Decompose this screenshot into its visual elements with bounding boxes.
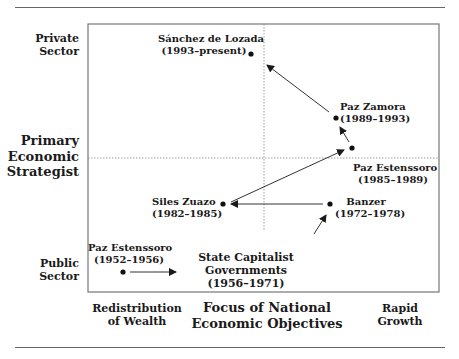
arrow-zamora-to-sanchez [267,65,329,112]
label-state-line2: Governments [196,264,296,277]
y-label-private-sector: Private Sector [35,32,79,58]
x-label-right-line2: Growth [372,315,428,328]
label-zamora-period: (1989–1993) [340,113,404,125]
point-siles-zuazo [220,201,225,206]
y-label-private-line1: Private [35,32,79,45]
label-paz-zamora: Paz Zamora (1989–1993) [340,101,404,125]
label-paz52-period: (1952–1956) [88,254,170,266]
label-zamora-name: Paz Zamora [340,101,404,113]
x-label-left-line1: Redistribution [92,302,182,315]
point-banzer [327,201,332,206]
label-paz85-period: (1985–1989) [353,174,433,186]
label-siles-period: (1982–1985) [152,208,214,220]
point-paz-estenssoro-1985 [349,145,354,150]
x-label-rapid-growth: Rapid Growth [372,302,428,328]
label-paz-estenssoro-1985: Paz Estenssoro (1985–1989) [353,162,433,186]
label-state-capitalist-governments: State Capitalist Governments (1956–1971) [196,251,296,291]
y-label-primary-line1: Primary [7,133,79,149]
arrow-state-to-banzer [314,215,326,234]
label-paz52-name: Paz Estenssoro [88,242,170,254]
y-label-primary-line3: Strategist [7,164,79,180]
x-label-redistribution: Redistribution of Wealth [92,302,182,328]
label-paz-estenssoro-1952: Paz Estenssoro (1952–1956) [88,242,170,266]
y-label-private-line2: Sector [35,45,79,58]
label-siles-name: Siles Zuazo [152,196,214,208]
x-label-left-line2: of Wealth [92,315,182,328]
x-label-middle-line1: Focus of National [188,300,346,316]
label-banzer-period: (1972–1978) [335,208,397,220]
y-label-public-line2: Sector [39,270,79,283]
y-label-public-sector: Public Sector [39,257,79,283]
label-banzer-name: Banzer [335,196,397,208]
label-siles-zuazo: Siles Zuazo (1982–1985) [152,196,214,220]
label-state-line3: (1956–1971) [196,277,296,290]
label-state-line1: State Capitalist [196,251,296,264]
point-paz-estenssoro-1952 [120,269,125,274]
x-label-middle-line2: Economic Objectives [188,316,346,332]
label-sanchez-de-lozada: Sánchez de Lozada (1993–present) [158,33,250,57]
point-paz-zamora [333,115,338,120]
label-paz85-name: Paz Estenssoro [353,162,433,174]
x-label-right-line1: Rapid [372,302,428,315]
arrow-paz85-to-zamora [340,127,349,142]
y-label-primary-economic-strategist: Primary Economic Strategist [7,133,79,180]
y-label-public-line1: Public [39,257,79,270]
label-banzer: Banzer (1972–1978) [335,196,397,220]
label-sanchez-period: (1993–present) [158,45,250,57]
label-sanchez-name: Sánchez de Lozada [158,33,250,45]
y-label-primary-line2: Economic [7,149,79,165]
x-label-focus: Focus of National Economic Objectives [188,300,346,331]
